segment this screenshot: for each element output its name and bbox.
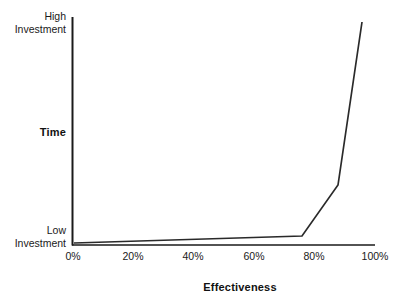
x-tick-20: 20%: [108, 250, 158, 262]
data-line-time-vs-effectiveness: [74, 22, 362, 243]
x-tick-80: 80%: [289, 250, 339, 262]
x-tick-40: 40%: [168, 250, 218, 262]
y-axis-low-label: Low Investment: [2, 224, 66, 249]
chart-figure: High Investment Time Low Investment 0% 2…: [0, 0, 403, 306]
y-axis-high-label: High Investment: [2, 10, 66, 35]
x-tick-100: 100%: [350, 250, 400, 262]
x-axis-title: Effectiveness: [72, 281, 403, 293]
x-tick-0: 0%: [48, 250, 98, 262]
x-tick-60: 60%: [229, 250, 279, 262]
y-axis-title: Time: [2, 126, 66, 138]
figure-caption: [8, 297, 398, 306]
